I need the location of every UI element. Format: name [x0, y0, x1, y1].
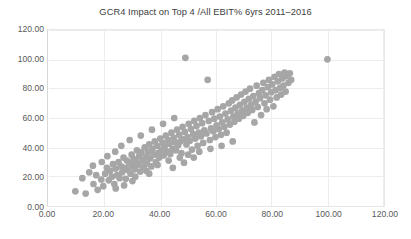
data-point — [100, 183, 107, 190]
data-point — [203, 130, 210, 137]
data-point — [263, 106, 270, 113]
data-point — [72, 188, 79, 195]
data-point — [160, 121, 167, 128]
data-point — [200, 140, 207, 147]
data-point — [98, 159, 105, 166]
data-point — [112, 185, 119, 192]
data-point — [270, 103, 277, 110]
data-point — [169, 165, 176, 172]
data-point — [82, 190, 89, 197]
data-point — [86, 169, 93, 176]
y-axis-tick-label: 60.00 — [0, 113, 44, 123]
x-axis-tick-label: 100.00 — [316, 209, 342, 219]
data-point — [104, 153, 111, 160]
data-point — [204, 77, 211, 84]
data-point — [267, 96, 274, 103]
data-point — [182, 55, 189, 62]
data-point — [218, 143, 225, 150]
data-point — [261, 100, 268, 107]
x-axis-tick-label: 0.00 — [39, 209, 56, 219]
data-point — [229, 138, 236, 145]
data-point — [207, 145, 214, 152]
x-axis-tick-label: 40.00 — [149, 209, 171, 219]
data-point — [137, 132, 144, 139]
chart-title: GCR4 Impact on Top 4 /All EBIT% 6yrs 201… — [0, 7, 411, 17]
data-point — [122, 176, 129, 183]
data-point — [79, 175, 86, 182]
data-point — [286, 70, 293, 77]
y-axis-tick-label: 0.00 — [0, 202, 44, 212]
data-point — [146, 170, 153, 177]
data-point — [154, 162, 161, 169]
data-point — [190, 154, 197, 161]
y-axis-tick-label: 100.00 — [0, 54, 44, 64]
data-point — [282, 88, 289, 95]
y-axis-tick-label: 80.00 — [0, 83, 44, 93]
y-axis-tick-label: 20.00 — [0, 172, 44, 182]
data-point — [199, 120, 206, 127]
data-point — [112, 148, 119, 155]
x-axis-tick-label: 80.00 — [262, 209, 284, 219]
data-point — [181, 159, 188, 166]
data-point — [223, 129, 230, 136]
data-point — [288, 77, 295, 84]
y-axis-labels: 0.0020.0040.0060.0080.00100.00120.00 — [0, 29, 44, 207]
data-point — [121, 182, 128, 189]
data-point — [149, 126, 156, 133]
data-point — [196, 148, 203, 155]
data-point — [258, 112, 265, 119]
data-point — [165, 157, 172, 164]
x-axis-tick-label: 60.00 — [205, 209, 227, 219]
data-point — [94, 187, 101, 194]
data-point — [247, 85, 254, 92]
data-point — [324, 56, 331, 63]
data-point — [93, 172, 100, 179]
data-point — [171, 115, 178, 122]
y-axis-tick-label: 40.00 — [0, 143, 44, 153]
data-point — [90, 181, 97, 188]
plot-area — [47, 29, 385, 207]
data-point — [254, 104, 261, 111]
data-point — [251, 119, 258, 126]
x-axis-labels: 0.0020.0040.0060.0080.00100.00120.00 — [47, 209, 385, 229]
x-axis-tick-label: 120.00 — [372, 209, 398, 219]
data-point — [118, 143, 125, 150]
data-point — [129, 178, 136, 185]
data-point — [202, 112, 209, 119]
data-point — [90, 162, 97, 169]
data-points — [48, 30, 384, 206]
data-point — [116, 175, 123, 182]
y-axis-tick-label: 120.00 — [0, 24, 44, 34]
data-point — [253, 82, 260, 89]
x-axis-tick-label: 20.00 — [93, 209, 115, 219]
data-point — [126, 137, 133, 144]
scatter-chart: GCR4 Impact on Top 4 /All EBIT% 6yrs 201… — [0, 0, 411, 239]
